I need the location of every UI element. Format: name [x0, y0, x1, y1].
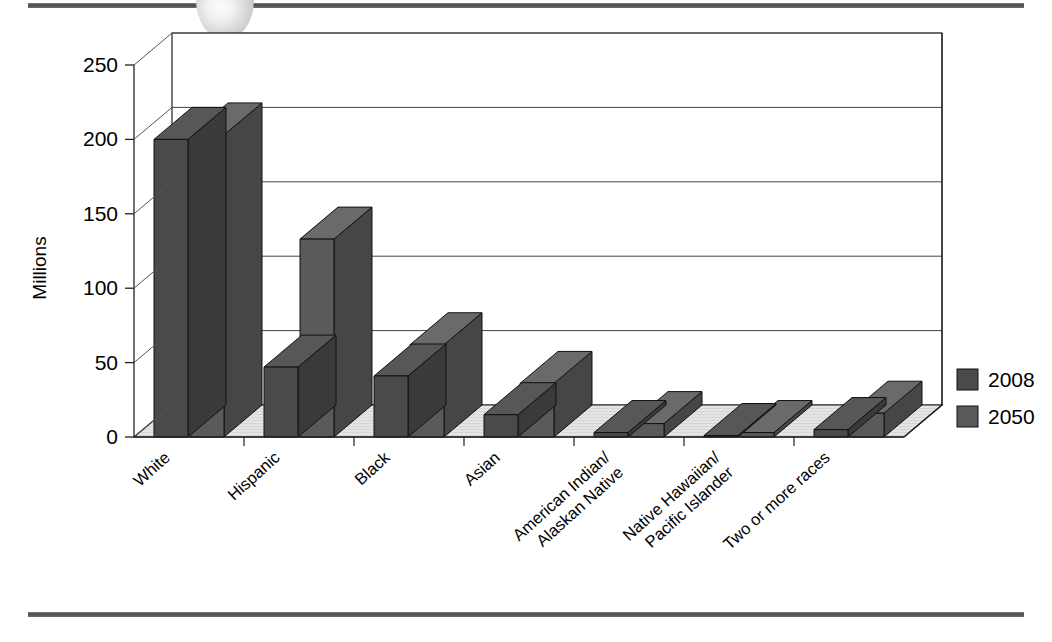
category-label-line1: Black — [351, 447, 394, 488]
category-label-line1: Two or more races — [719, 448, 833, 553]
category-label: Black — [351, 447, 394, 488]
bar-chart-3d: 050100150200250 WhiteHispanicBlackAsianA… — [0, 0, 1052, 642]
legend-item[interactable]: 2050 — [957, 405, 1035, 428]
y-tick-label: 200 — [83, 127, 118, 150]
legend-swatch — [957, 369, 978, 390]
legend-item[interactable]: 2008 — [957, 368, 1035, 391]
category-label: Asian — [460, 448, 503, 489]
legend-label: 2008 — [988, 368, 1035, 391]
legend-label: 2050 — [988, 405, 1035, 428]
category-label: White — [130, 448, 173, 490]
figure-container: 050100150200250 WhiteHispanicBlackAsianA… — [0, 0, 1052, 642]
legend: 20082050 — [957, 368, 1035, 428]
bar — [154, 107, 226, 437]
y-tick-labels: 050100150200250 — [83, 53, 118, 448]
y-tick-label: 100 — [83, 276, 118, 299]
category-label: Hispanic — [224, 448, 283, 504]
category-label-line1: Asian — [460, 448, 503, 489]
y-tick-label: 150 — [83, 202, 118, 225]
y-tick-label: 250 — [83, 53, 118, 76]
category-label: Two or more races — [719, 448, 833, 553]
category-label-line1: White — [130, 448, 173, 490]
category-labels: WhiteHispanicBlackAsianAmerican Indian/A… — [130, 447, 833, 559]
category-label: American Indian/Alaskan Native — [509, 448, 627, 559]
category-label-line1: Hispanic — [224, 448, 283, 504]
legend-swatch — [957, 406, 978, 427]
category-label: Native Hawaiian/Pacific Islander — [619, 448, 737, 559]
y-tick-label: 50 — [95, 351, 118, 374]
y-axis-title: Millions — [29, 236, 50, 299]
y-tick-label: 0 — [106, 425, 118, 448]
